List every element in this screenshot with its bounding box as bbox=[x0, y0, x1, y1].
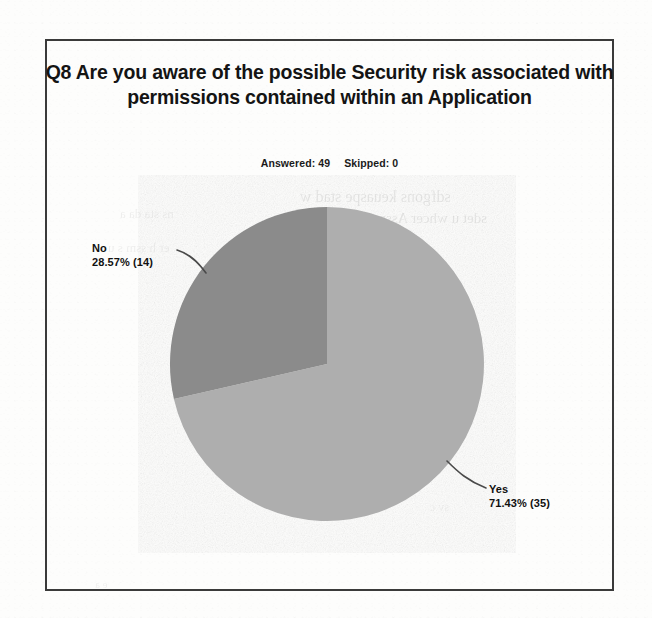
pie-label-no-value: 28.57% (14) bbox=[92, 255, 153, 269]
chart-response-summary: Answered: 49Skipped: 0 bbox=[45, 157, 614, 169]
chart-title: Q8 Are you aware of the possible Securit… bbox=[45, 60, 614, 110]
pie-label-yes: Yes 71.43% (35) bbox=[489, 482, 550, 510]
answered-count: Answered: 49 bbox=[261, 157, 330, 169]
pie-label-no: No 28.57% (14) bbox=[92, 241, 153, 269]
skipped-count: Skipped: 0 bbox=[344, 157, 398, 169]
pie-label-yes-value: 71.43% (35) bbox=[489, 496, 550, 510]
pie-label-yes-name: Yes bbox=[489, 482, 550, 496]
pie-label-no-name: No bbox=[92, 241, 153, 255]
